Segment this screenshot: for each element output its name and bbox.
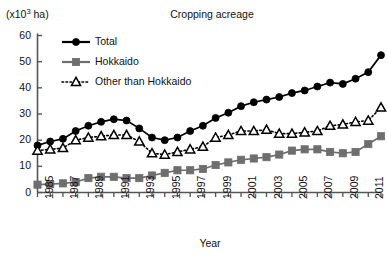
legend-label-other-than-hokkaido: Other than Hokkaido <box>95 75 191 87</box>
x-tick-label: 2003 <box>272 175 284 198</box>
x-tick-label: 1999 <box>221 175 233 198</box>
x-tick-label: 2005 <box>297 175 309 198</box>
y-tick-label: 40 <box>5 81 31 93</box>
axis-lines <box>38 34 382 193</box>
y-tick-label: 30 <box>5 107 31 119</box>
x-tick-label: 1997 <box>195 175 207 198</box>
x-tick-label: 2001 <box>246 175 258 198</box>
legend-label-total: Total <box>95 35 117 47</box>
x-tick-label: 1987 <box>68 175 80 198</box>
x-tick-label: 2011 <box>373 176 385 199</box>
x-tick-label: 2007 <box>322 175 334 198</box>
x-tick-label: 1989 <box>93 175 105 198</box>
legend-label-hokkaido: Hokkaido <box>95 55 139 67</box>
legend-symbols <box>62 39 90 86</box>
x-tick-label: 2009 <box>348 175 360 198</box>
y-tick-label: 0 <box>5 186 31 198</box>
y-tick-label: 50 <box>5 55 31 67</box>
plot-area <box>0 0 388 261</box>
x-tick-label: 1993 <box>144 175 156 198</box>
x-tick-label: 1995 <box>170 175 182 198</box>
y-tick-label: 10 <box>5 159 31 171</box>
series-total <box>34 52 385 149</box>
x-tick-label: 1985 <box>43 175 55 198</box>
y-tick-label: 20 <box>5 133 31 145</box>
cropping-acreage-chart: (x103 ha) Cropping acreage Year 01020304… <box>0 0 388 261</box>
y-tick-label: 60 <box>5 29 31 41</box>
x-tick-label: 1991 <box>119 175 131 198</box>
